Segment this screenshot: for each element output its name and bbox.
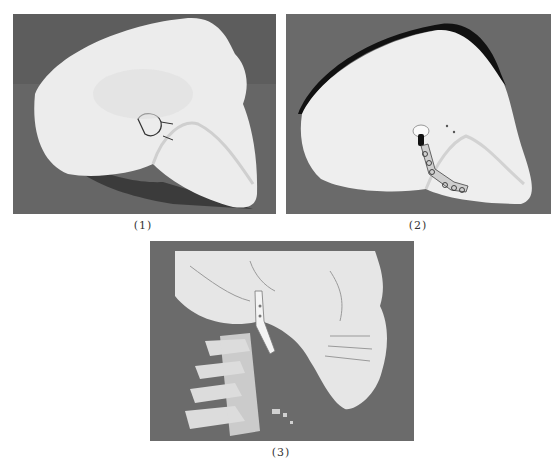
skull-model-image — [13, 14, 276, 214]
ct-3d-reconstruction-image — [150, 241, 414, 441]
panel-2-caption: (2) — [398, 219, 438, 232]
skull-model-with-implant-image — [286, 14, 551, 214]
figure-panel-3-ct-reconstruction — [150, 241, 414, 441]
panel-1-caption: (1) — [123, 219, 163, 232]
panel-3-caption: (3) — [261, 446, 301, 459]
figure-panel-2-skull-with-implant-photo — [286, 14, 551, 214]
figure-panel-1-skull-model-photo — [13, 14, 276, 214]
